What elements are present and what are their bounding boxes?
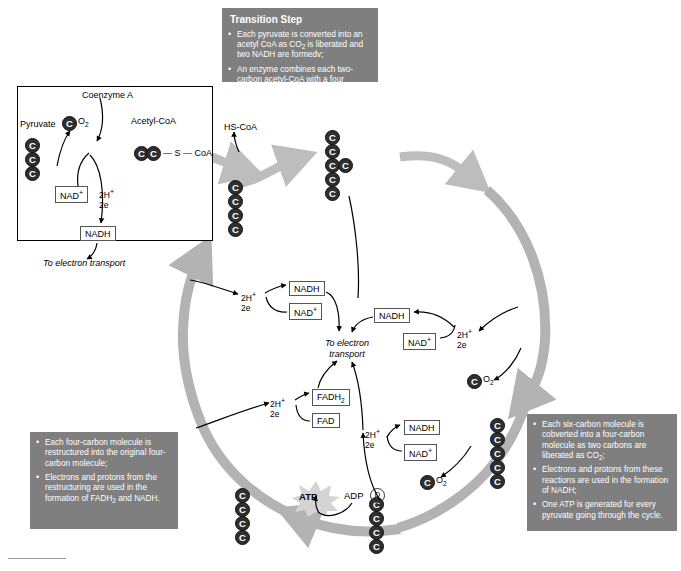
carbon-atom: C: [369, 511, 384, 526]
nad-plus-box-transition: NAD+: [55, 186, 88, 203]
nad-plus-box-lower: NAD+: [404, 444, 437, 461]
atp-label: ATP: [299, 491, 317, 502]
nadh-box-lower: NADH: [404, 420, 440, 435]
four-carbon-info-box: Each four-carbon molecule is restructure…: [30, 432, 178, 529]
fad-box: FAD: [312, 413, 340, 428]
carbon-atom: C: [369, 525, 384, 540]
to-electron-transport-label-center: To electrontransport: [307, 338, 387, 360]
proton-electron-label-transition: 2H+2e: [99, 187, 114, 210]
carbon-atom: C: [325, 130, 340, 145]
six-carbon-bullet: Each six-carbon molecule is cobverted in…: [533, 420, 669, 461]
proton-electron-label-upper-left: 2H+2e: [241, 290, 256, 313]
carbon-atom: C: [490, 418, 505, 433]
carbon-atom: C: [325, 186, 340, 201]
carbon-atom-side: C: [338, 158, 353, 173]
carbon-atom: C: [25, 152, 40, 167]
adp-label: ADP: [344, 490, 364, 501]
carbon-atom: C: [62, 116, 77, 131]
proton-electron-label-lower: 2H+2e: [365, 427, 380, 450]
carbon-atom: C: [228, 222, 243, 237]
nadh-box-transition: NADH: [80, 226, 116, 241]
carbon-atom: C: [235, 516, 250, 531]
co2-oxygen-label: O2: [483, 374, 494, 384]
carbon-atom: C: [490, 460, 505, 475]
carbon-atom: C: [235, 488, 250, 503]
carbon-atom: C: [235, 530, 250, 545]
co2-molecule-bottom: CO2: [420, 472, 446, 490]
carbon-atom: C: [325, 144, 340, 159]
acetyl-coa-label: Acetyl-CoA: [131, 116, 176, 126]
nadh-box-upper-left: NADH: [289, 281, 325, 296]
co2-oxygen-label: O2: [78, 116, 89, 126]
carbon-atom: C: [146, 146, 161, 161]
carbon-atom: C: [490, 446, 505, 461]
carbon-atom: C: [490, 474, 505, 489]
nad-plus-box-upper-left: NAD+: [289, 303, 322, 320]
co2-oxygen-label: O2: [436, 475, 447, 485]
nad-plus-box-upper-right: NAD+: [403, 333, 436, 350]
six-carbon-bullet: Electrons and protons from these reactio…: [533, 465, 669, 496]
transition-step-title: Transition Step: [230, 14, 370, 27]
proton-electron-label-fad: 2H+2e: [270, 396, 285, 419]
carbon-atom: C: [467, 374, 482, 389]
carbon-atom: C: [420, 475, 435, 490]
to-electron-transport-label-transition: To electron transport: [43, 258, 125, 268]
transition-step-bullet: Each pyruvate is converted into an acety…: [228, 30, 370, 61]
phosphate-circle: D: [370, 488, 385, 503]
six-carbon-bullet-list: Each six-carbon molecule is cobverted in…: [533, 420, 669, 521]
carbon-atom: C: [490, 432, 505, 447]
co2-molecule-transition: CO2: [62, 113, 88, 131]
six-carbon-bullet: One ATP is generated for every pyruvate …: [533, 500, 669, 521]
transition-step-bullet: An enzyme combines each two-carbon acety…: [228, 65, 370, 106]
acetyl-coa-bond-label: — S — CoA: [163, 148, 212, 158]
carbon-atom: C: [228, 180, 243, 195]
carbon-atom: C: [25, 138, 40, 153]
four-carbon-bullet-list: Each four-carbon molecule is restructure…: [36, 438, 170, 504]
carbon-atom: C: [228, 194, 243, 209]
coenzyme-a-label: Coenzyme A: [82, 90, 133, 100]
proton-electron-label-upper-right: 2H+2e: [457, 327, 472, 350]
four-carbon-bullet: Electrons and protons from the restructu…: [36, 473, 170, 504]
six-carbon-info-box: Each six-carbon molecule is cobverted in…: [527, 414, 677, 531]
hs-coa-label: HS-CoA: [224, 122, 257, 132]
carbon-atom: C: [369, 539, 384, 554]
transition-step-bullet-list: Each pyruvate is converted into an acety…: [228, 30, 370, 106]
carbon-atom: C: [235, 502, 250, 517]
nadh-box-upper-right: NADH: [374, 308, 410, 323]
four-carbon-bullet: Each four-carbon molecule is restructure…: [36, 438, 170, 469]
pyruvate-label: Pyruvate: [20, 119, 56, 129]
co2-molecule-right: CO2: [467, 371, 493, 389]
carbon-atom: C: [325, 172, 340, 187]
transition-step-box: Transition Step Each pyruvate is convert…: [222, 8, 378, 82]
carbon-atom: C: [25, 166, 40, 181]
fadh2-box: FADH2: [312, 389, 350, 406]
footer-rule: [8, 558, 66, 559]
carbon-atom: C: [228, 208, 243, 223]
pyruvate-panel: [17, 86, 213, 241]
